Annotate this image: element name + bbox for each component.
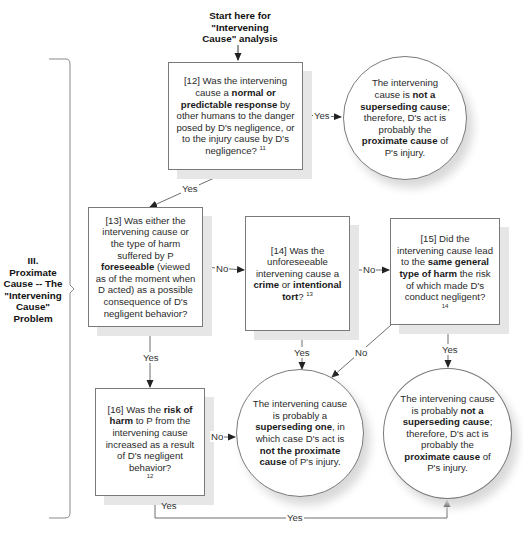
section-line: Cause" [0, 301, 66, 313]
question-15-text: [15] Did the intervening cause lead to t… [397, 233, 493, 310]
section-line: Problem [0, 313, 66, 325]
edge-label-q16-no-r2: No [210, 431, 224, 442]
start-line: Start here for [190, 10, 290, 22]
result-probably-not-superseding-circle: The intervening cause is probably not a … [383, 368, 512, 499]
edge-label-q12-yes-r1: Yes [313, 110, 331, 121]
edge-label-q15-yes-r3: Yes [441, 344, 459, 355]
edge-label-q15-no-r2: No [354, 347, 368, 358]
edge-label-q16-yes: Yes [160, 500, 178, 511]
question-12-box: [12] Was the intervening cause a normal … [168, 62, 303, 170]
section-title: III. Proximate Cause -- The "Intervening… [0, 255, 66, 325]
start-line: "Intervening [190, 22, 290, 34]
section-line: Proximate [0, 267, 66, 279]
question-13-text: [13] Was either the intervening cause or… [95, 215, 196, 319]
edge-label-q13-yes-q16: Yes [142, 352, 160, 363]
question-13-box: [13] Was either the intervening cause or… [88, 207, 203, 327]
text: [14] Was the unforeseeable intervening c… [256, 245, 339, 279]
edge-label-q14-yes-r2: Yes [293, 347, 311, 358]
start-line: Cause" analysis [190, 33, 290, 45]
emphasis: crime [254, 279, 280, 290]
result-1-text: The intervening cause is not a supersedi… [358, 77, 452, 158]
section-line: "Intervening [0, 290, 66, 302]
emphasis: proximate cause [362, 135, 438, 146]
footnote-ref: 11 [260, 145, 266, 151]
text: or [279, 279, 293, 290]
question-12-text: [12] Was the intervening cause a normal … [175, 75, 296, 156]
result-2-text: The intervening cause is probably a supe… [251, 398, 349, 468]
result-not-superseding-circle: The intervening cause is not a supersedi… [343, 56, 467, 180]
question-14-text: [14] Was the unforeseeable intervening c… [252, 245, 343, 303]
emphasis: foreseeable [101, 261, 154, 272]
edge-label-q13-no-q14: No [215, 263, 229, 274]
result-superseding-circle: The intervening cause is probably a supe… [236, 369, 364, 497]
result-3-text: The intervening cause is probably not a … [398, 393, 497, 474]
text: The intervening cause is probably a [253, 398, 347, 421]
text: [13] Was either the intervening cause or… [102, 215, 188, 261]
flowchart-canvas: Start here for "Intervening Cause" analy… [0, 0, 523, 535]
footnote-ref: 12 [102, 473, 198, 480]
question-16-text: [16] Was the risk of harm to P from the … [102, 404, 198, 481]
question-15-box: [15] Did the intervening cause lead to t… [390, 218, 500, 325]
edge-label-q14-no-q15: No [362, 264, 376, 275]
footnote-ref: 13 [306, 291, 313, 297]
footnote-ref: 14 [397, 303, 493, 310]
edge-label-q12-yes-q13: Yes [181, 183, 199, 194]
emphasis: proximate cause [404, 451, 480, 462]
text: of P's injury. [287, 456, 341, 467]
section-line: III. [0, 255, 66, 267]
start-label: Start here for "Intervening Cause" analy… [190, 10, 290, 45]
text: [16] Was the [108, 404, 164, 415]
edge-label-q16-yes-r3: Yes [286, 512, 304, 523]
section-line: Cause -- The [0, 278, 66, 290]
text: ? [298, 291, 303, 302]
question-14-box: [14] Was the unforeseeable intervening c… [245, 216, 350, 331]
emphasis: superseding one [255, 421, 332, 432]
question-16-box: [16] Was the risk of harm to P from the … [95, 388, 205, 496]
